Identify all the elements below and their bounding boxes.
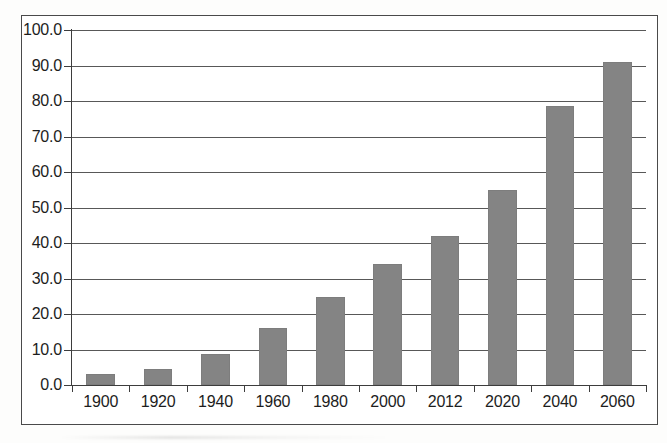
gridline: [72, 30, 646, 31]
y-axis-tick-label: 20.0: [10, 305, 62, 323]
y-axis-tick-label: 50.0: [10, 199, 62, 217]
bar: [488, 190, 517, 385]
y-axis-tick: [64, 208, 72, 209]
y-axis-tick: [64, 385, 72, 386]
x-axis-tick-label: 1920: [141, 393, 176, 411]
x-axis-tick-label: 2000: [370, 393, 405, 411]
y-axis-tick-label: 10.0: [10, 341, 62, 359]
x-axis-tick: [474, 385, 475, 392]
scan-artifact: [60, 436, 390, 439]
bar: [546, 106, 575, 385]
gridline: [72, 66, 646, 67]
y-axis-tick-label: 80.0: [10, 92, 62, 110]
x-axis-tick: [129, 385, 130, 392]
y-axis-tick: [64, 137, 72, 138]
bar: [603, 62, 632, 385]
bar: [373, 264, 402, 385]
bar: [431, 236, 460, 385]
bar: [316, 297, 345, 385]
bar: [201, 354, 230, 385]
x-axis-tick: [244, 385, 245, 392]
y-axis-tick-label: 0.0: [10, 376, 62, 394]
y-axis-labels: 0.010.020.030.040.050.060.070.080.090.01…: [4, 0, 62, 443]
bar: [259, 328, 288, 385]
y-axis-tick: [64, 279, 72, 280]
bar: [86, 374, 115, 385]
x-axis-tick-label: 1960: [255, 393, 290, 411]
y-axis-tick: [64, 314, 72, 315]
x-axis-tick: [416, 385, 417, 392]
gridline: [72, 101, 646, 102]
x-axis-tick-label: 1980: [313, 393, 348, 411]
plot-area: [72, 30, 646, 385]
y-axis-tick: [64, 101, 72, 102]
x-axis-tick: [589, 385, 590, 392]
x-axis-tick: [531, 385, 532, 392]
bar: [144, 369, 173, 385]
bar-chart-figure: 0.010.020.030.040.050.060.070.080.090.01…: [0, 0, 667, 443]
x-axis-tick-label: 2020: [485, 393, 520, 411]
x-axis-tick-label: 2060: [600, 393, 635, 411]
x-axis-tick: [302, 385, 303, 392]
y-axis-tick: [64, 172, 72, 173]
y-axis-tick: [64, 243, 72, 244]
y-axis-tick: [64, 30, 72, 31]
x-axis-tick-label: 2012: [428, 393, 463, 411]
x-axis-tick: [72, 385, 73, 392]
y-axis-tick: [64, 350, 72, 351]
y-axis-tick-label: 30.0: [10, 270, 62, 288]
x-axis-tick-label: 1900: [83, 393, 118, 411]
y-axis-tick-label: 90.0: [10, 57, 62, 75]
x-axis-tick: [187, 385, 188, 392]
x-axis-tick: [359, 385, 360, 392]
y-axis-tick-label: 70.0: [10, 128, 62, 146]
x-axis-tick-label: 2040: [542, 393, 577, 411]
x-axis-tick-label: 1940: [198, 393, 233, 411]
y-axis-tick-label: 40.0: [10, 234, 62, 252]
y-axis-tick-label: 100.0: [10, 21, 62, 39]
y-axis-tick-label: 60.0: [10, 163, 62, 181]
y-axis-tick: [64, 66, 72, 67]
x-axis-tick: [646, 385, 647, 392]
